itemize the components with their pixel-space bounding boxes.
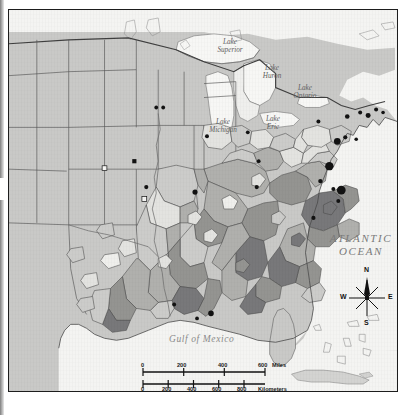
scale-miles-unit: Miles	[272, 362, 286, 368]
map-point-symbol	[257, 159, 261, 163]
scale-km-tick-400: 400	[187, 386, 196, 392]
scale-km-unit: Kilometers	[258, 386, 287, 392]
compass-rose: N E S W	[339, 268, 395, 330]
compass-west-label: W	[340, 293, 347, 300]
scale-bar: 0 200 400 600 Miles 0 200 400 600 800 Ki…	[141, 362, 316, 392]
map-point-symbol	[325, 162, 333, 170]
map-point-symbol	[374, 107, 378, 111]
scale-km-tick-200: 200	[162, 386, 171, 392]
map-point-symbol	[102, 166, 107, 171]
map-point-symbol	[366, 113, 371, 118]
scale-miles-tick-600: 600	[258, 362, 267, 368]
map-point-symbol	[246, 130, 250, 134]
map-point-symbol	[311, 216, 315, 220]
map-point-symbol	[255, 185, 259, 189]
map-point-symbol	[337, 186, 346, 195]
map-point-symbol	[132, 159, 136, 163]
map-point-symbol	[205, 134, 209, 138]
map-frame: Lake Superior Lake Huron Lake Ontario La…	[8, 9, 398, 392]
map-point-symbol	[343, 135, 347, 139]
map-point-symbol	[336, 199, 340, 203]
map-point-symbol	[345, 114, 350, 119]
page-edge-notch	[0, 178, 4, 200]
scale-miles-tick-0: 0	[141, 362, 144, 368]
map-point-symbol	[208, 311, 214, 317]
map-point-symbol	[192, 189, 197, 194]
scale-miles-tick-400: 400	[218, 362, 227, 368]
map-point-symbol	[172, 302, 176, 306]
compass-east-label: E	[388, 293, 393, 300]
compass-south-label: S	[364, 319, 369, 326]
map-point-symbol	[354, 138, 358, 142]
map-point-symbol	[381, 111, 385, 115]
map-point-symbol	[195, 316, 199, 320]
map-graphic	[9, 10, 397, 391]
page-edge-strip	[0, 0, 4, 415]
map-point-symbol	[358, 110, 362, 114]
compass-north-label: N	[364, 266, 369, 273]
map-point-symbol	[316, 119, 320, 123]
scale-km-tick-800: 800	[237, 386, 246, 392]
scale-km-tick-0: 0	[141, 386, 144, 392]
map-point-symbol	[144, 185, 148, 189]
map-point-symbol	[142, 197, 147, 202]
map-point-symbol	[161, 106, 165, 110]
map-point-symbol	[154, 106, 158, 110]
scale-km-tick-600: 600	[212, 386, 221, 392]
map-point-symbol	[331, 187, 335, 191]
map-point-symbol	[334, 138, 341, 145]
map-point-symbol	[318, 179, 322, 183]
scale-miles-tick-200: 200	[177, 362, 186, 368]
